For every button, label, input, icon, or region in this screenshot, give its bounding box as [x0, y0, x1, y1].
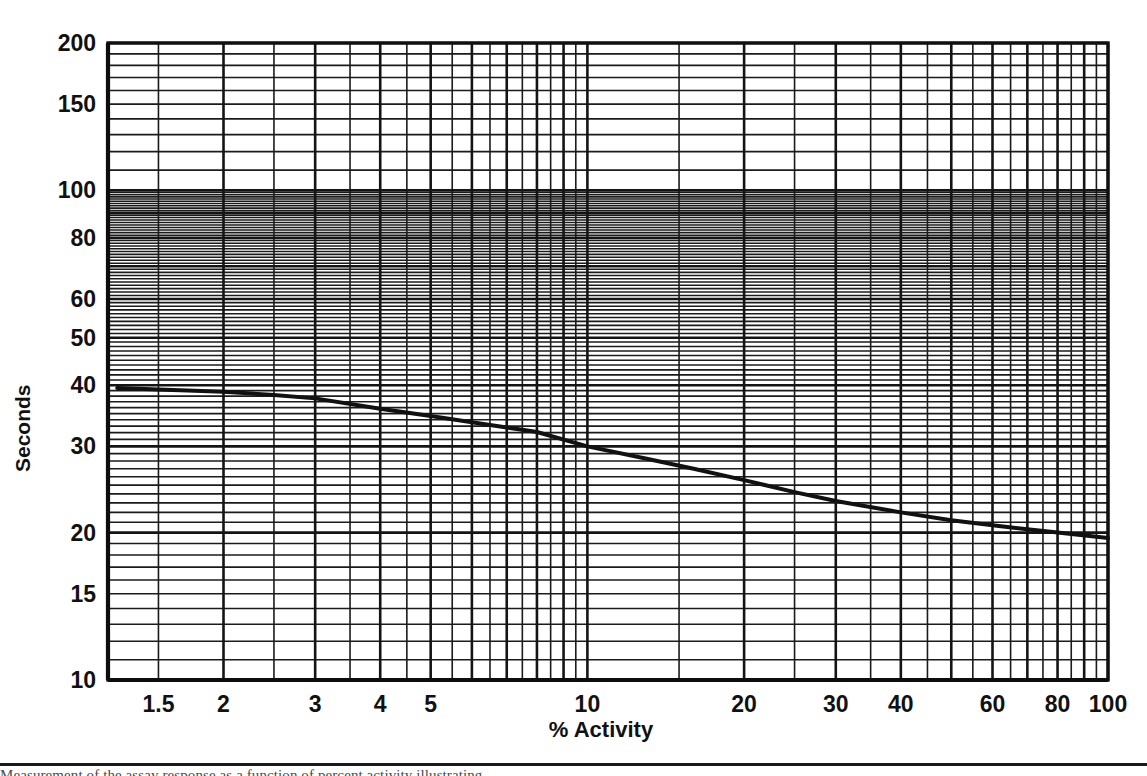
- y-tick-label: 60: [70, 286, 96, 312]
- x-tick-label: 40: [888, 691, 914, 717]
- x-tick-label: 60: [980, 691, 1006, 717]
- x-tick-label: 100: [1089, 691, 1127, 717]
- figure-container: 2001501008060504030201510 1.523451020304…: [0, 0, 1147, 776]
- log-log-line-chart: 2001501008060504030201510 1.523451020304…: [0, 0, 1147, 776]
- y-axis-title: Seconds: [11, 384, 34, 472]
- x-tick-label: 80: [1045, 691, 1071, 717]
- x-tick-label: 10: [575, 691, 601, 717]
- footer-divider: [0, 763, 1147, 766]
- x-tick-label: 1.5: [143, 691, 175, 717]
- x-tick-label: 2: [217, 691, 230, 717]
- x-tick-label: 20: [731, 691, 757, 717]
- x-tick-label: 4: [374, 691, 387, 717]
- x-tick-label: 30: [823, 691, 849, 717]
- y-tick-label: 50: [70, 325, 96, 351]
- y-tick-label: 80: [70, 225, 96, 251]
- x-tick-label: 3: [309, 691, 322, 717]
- y-tick-label: 20: [70, 520, 96, 546]
- y-tick-label: 40: [70, 372, 96, 398]
- y-tick-label: 30: [70, 433, 96, 459]
- y-tick-label: 200: [58, 30, 96, 56]
- y-tick-label: 150: [58, 91, 96, 117]
- footer-caption: Measurement of the assay response as a f…: [0, 767, 1147, 776]
- y-tick-label: 10: [70, 667, 96, 693]
- x-axis-title: % Activity: [549, 717, 654, 742]
- y-tick-label: 100: [58, 177, 96, 203]
- y-tick-label: 15: [70, 581, 96, 607]
- x-tick-label: 5: [424, 691, 437, 717]
